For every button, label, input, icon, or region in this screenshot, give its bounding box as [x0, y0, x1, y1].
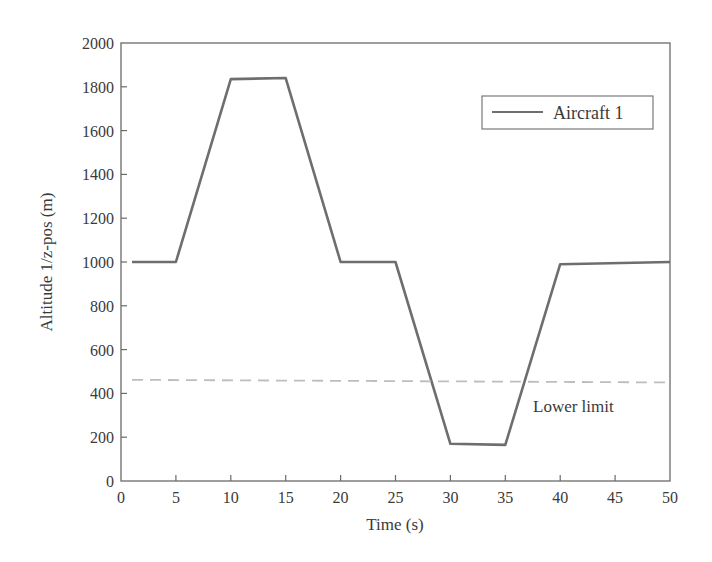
- x-tick-label: 20: [333, 489, 349, 506]
- legend-label-aircraft-1: Aircraft 1: [553, 103, 623, 123]
- x-tick-label: 40: [552, 489, 568, 506]
- lower-limit-line: [132, 380, 670, 383]
- y-tick-label: 200: [90, 429, 114, 446]
- x-tick-label: 5: [172, 489, 180, 506]
- y-tick-label: 1400: [82, 166, 114, 183]
- series-layer: [132, 78, 670, 445]
- y-tick-label: 1000: [82, 254, 114, 271]
- x-tick-label: 25: [388, 489, 404, 506]
- x-tick-label: 45: [607, 489, 623, 506]
- y-tick-label: 1800: [82, 79, 114, 96]
- y-tick-label: 400: [90, 385, 114, 402]
- lower-limit-annotation: Lower limit: [533, 397, 614, 416]
- x-axis-label: Time (s): [366, 515, 423, 534]
- x-tick-label: 0: [117, 489, 125, 506]
- x-tick-label: 15: [278, 489, 294, 506]
- aircraft-1-line: [132, 78, 670, 445]
- x-axis-ticks: 05101520253035404550: [117, 475, 678, 506]
- y-tick-label: 0: [106, 473, 114, 490]
- altitude-chart: 05101520253035404550 0200400600800100012…: [0, 0, 712, 562]
- y-tick-label: 1200: [82, 210, 114, 227]
- x-tick-label: 50: [662, 489, 678, 506]
- x-tick-label: 10: [223, 489, 239, 506]
- y-tick-label: 2000: [82, 35, 114, 52]
- y-tick-label: 600: [90, 342, 114, 359]
- x-tick-label: 30: [442, 489, 458, 506]
- y-axis-ticks: 0200400600800100012001400160018002000: [82, 35, 127, 490]
- y-axis-label: Altitude 1/z-pos (m): [37, 193, 56, 332]
- legend: Aircraft 1: [482, 96, 653, 129]
- x-tick-label: 35: [497, 489, 513, 506]
- y-tick-label: 1600: [82, 123, 114, 140]
- y-tick-label: 800: [90, 298, 114, 315]
